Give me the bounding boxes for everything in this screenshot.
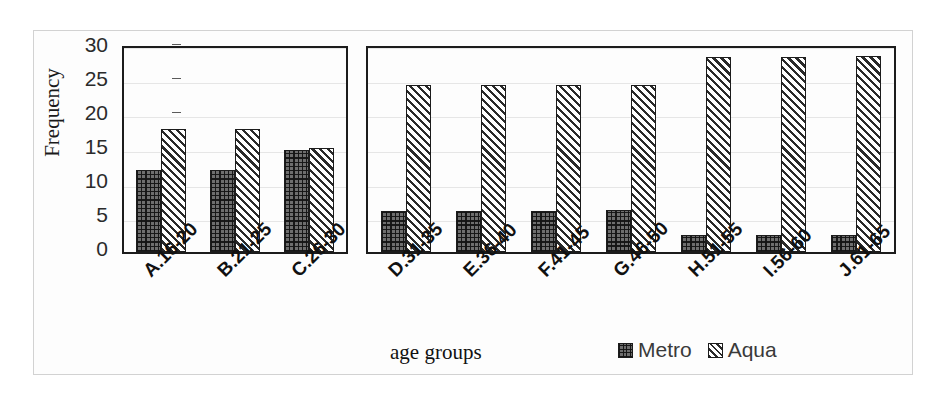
bar-group [606, 48, 656, 252]
bar-group [284, 48, 334, 252]
bar-group [136, 48, 186, 252]
bar-aqua [161, 129, 186, 252]
legend-item-metro: Metro [618, 338, 692, 362]
bar-group [831, 48, 881, 252]
bar-aqua [781, 57, 806, 252]
bar-metro [681, 235, 706, 252]
bar-metro [531, 211, 556, 252]
y-axis-tick-label: 20 [60, 102, 108, 123]
bar-group [210, 48, 260, 252]
y-axis-tick-label: 0 [60, 238, 108, 259]
y-axis-tick-label: 15 [60, 136, 108, 157]
x-axis-title: age groups [390, 340, 482, 365]
bar-metro [456, 211, 481, 252]
bar-group [456, 48, 506, 252]
bar-metro [606, 210, 631, 252]
bar-metro [381, 211, 406, 252]
bar-metro [136, 170, 161, 252]
legend-label-metro: Metro [638, 338, 692, 362]
y-axis-tick-label: 30 [60, 34, 108, 55]
y-axis-tick-label: 25 [60, 68, 108, 89]
bar-metro [831, 235, 856, 252]
legend-item-aqua: Aqua [708, 338, 777, 362]
bar-aqua [631, 85, 656, 252]
chart-legend: Metro Aqua [618, 338, 777, 362]
bar-aqua [406, 85, 431, 252]
plot-panel-left [122, 46, 348, 254]
bar-aqua [706, 57, 731, 252]
bar-aqua [309, 148, 334, 252]
bar-group [681, 48, 731, 252]
bar-aqua [856, 56, 881, 252]
y-axis-tick-mark [172, 44, 181, 45]
legend-swatch-metro-icon [618, 343, 633, 358]
bar-group [381, 48, 431, 252]
plot-panel-right [366, 46, 896, 254]
bars-container-right [368, 48, 894, 252]
y-axis-tick-label: 10 [60, 170, 108, 191]
bar-aqua [556, 85, 581, 252]
legend-swatch-aqua-icon [708, 343, 723, 358]
y-axis-tick-label: 5 [60, 204, 108, 225]
bar-metro [756, 235, 781, 252]
bar-metro [210, 170, 235, 252]
bar-group [756, 48, 806, 252]
bars-container-left [124, 48, 346, 252]
bar-group [531, 48, 581, 252]
bar-aqua [481, 85, 506, 252]
bar-aqua [235, 129, 260, 252]
chart-figure: Frequency 302520151050 A.16-20B.21-25C.2… [0, 0, 947, 414]
y-axis-tick-labels: 302520151050 [60, 42, 108, 254]
legend-label-aqua: Aqua [728, 338, 777, 362]
bar-metro [284, 150, 309, 253]
